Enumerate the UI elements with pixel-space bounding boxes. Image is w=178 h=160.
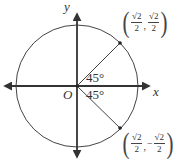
- upper-y-numerator: √2: [148, 12, 159, 23]
- lower-point-coordinates: ( √2 2 , − √2 2 ): [121, 128, 175, 158]
- y-axis-label: y: [64, 0, 70, 13]
- upper-x-fraction: √2 2: [131, 12, 142, 33]
- comma: ,: [143, 141, 146, 152]
- lower-y-numerator: √2: [154, 133, 165, 144]
- upper-x-numerator: √2: [131, 12, 142, 23]
- upper-angle-label: 45°: [86, 71, 104, 84]
- origin-dot: [76, 85, 79, 88]
- lower-y-sign: −: [147, 138, 153, 149]
- right-paren: ): [167, 128, 174, 158]
- lower-angle-label: 45°: [86, 88, 104, 101]
- lower-x-fraction: √2 2: [131, 133, 142, 154]
- x-axis-label: x: [153, 85, 159, 98]
- comma: ,: [143, 20, 146, 31]
- left-paren: (: [123, 128, 130, 158]
- lower-x-denominator: 2: [134, 144, 139, 154]
- lower-x-numerator: √2: [131, 133, 142, 144]
- lower-y-denominator: 2: [157, 144, 162, 154]
- origin-label: O: [63, 88, 72, 101]
- left-paren: (: [123, 7, 130, 37]
- upper-point-coordinates: ( √2 2 , √2 2 ): [121, 7, 169, 37]
- right-paren: ): [161, 7, 168, 37]
- lower-y-fraction: √2 2: [154, 133, 165, 154]
- upper-x-denominator: 2: [134, 23, 139, 33]
- upper-y-denominator: 2: [151, 23, 156, 33]
- upper-y-fraction: √2 2: [148, 12, 159, 33]
- upper-point-dot: [118, 41, 122, 45]
